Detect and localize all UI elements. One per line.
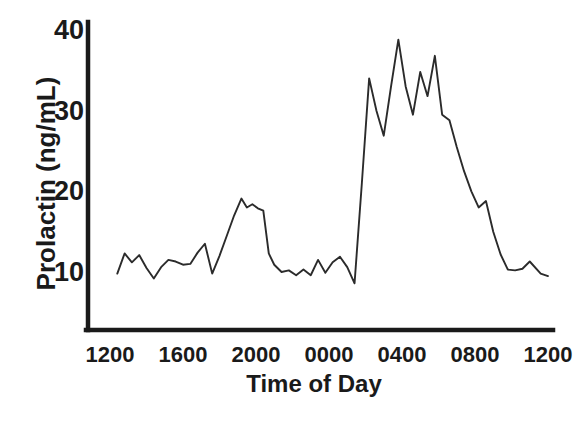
prolactin-data-line [117, 40, 548, 284]
x-tick-label-1200-6: 1200 [524, 342, 573, 368]
data-series-group [117, 40, 548, 284]
x-tick-label-1200-0: 1200 [86, 342, 135, 368]
x-axis-title: Time of Day [0, 370, 587, 398]
y-axis-title: Prolactin (ng/mL) [31, 54, 62, 314]
x-tick-label-0800-5: 0800 [451, 342, 500, 368]
axis-lines [86, 22, 553, 330]
prolactin-time-of-day-chart: 10203040 1200160020000000040008001200 Pr… [0, 0, 587, 424]
x-tick-label-0000-3: 0000 [305, 342, 354, 368]
x-tick-label-2000-2: 2000 [232, 342, 281, 368]
x-tick-label-1600-1: 1600 [159, 342, 208, 368]
x-tick-label-0400-4: 0400 [378, 342, 427, 368]
y-tick-label-40: 40 [42, 15, 84, 46]
